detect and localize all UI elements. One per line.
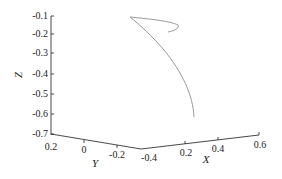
x-tick-label: -0.4 (141, 152, 157, 163)
x-axis-title: X (202, 153, 211, 165)
z-tick-label: -0.5 (32, 88, 48, 99)
x-tick-label: 0.2 (180, 147, 193, 158)
y-tick-label: 0.2 (45, 141, 58, 152)
x-tick-label: 0.4 (212, 143, 225, 154)
z-tick-label: -0.3 (32, 47, 48, 58)
z-tick-label: -0.6 (32, 108, 48, 119)
y-tick-label: 0 (82, 144, 87, 155)
z-axis-title: Z (12, 71, 24, 78)
z-axis: -0.1 -0.2 -0.3 -0.4 -0.5 -0.6 -0.7 Z (12, 10, 54, 139)
y-tick-label: -0.2 (109, 149, 125, 160)
y-axis: 0.2 0 -0.2 Y (45, 134, 141, 169)
z-tick-label: -0.4 (32, 68, 48, 79)
z-tick-label: -0.1 (32, 10, 48, 21)
x-axis: -0.4 0.2 0.4 0.6 X (141, 132, 266, 165)
y-axis-title: Y (92, 157, 100, 169)
x-tick-label: 0.6 (254, 139, 267, 150)
z-tick-label: -0.2 (32, 28, 48, 39)
3d-line-plot: -0.1 -0.2 -0.3 -0.4 -0.5 -0.6 -0.7 Z 0.2… (0, 0, 282, 179)
trajectory-curve (130, 17, 194, 117)
z-tick-label: -0.7 (32, 128, 48, 139)
